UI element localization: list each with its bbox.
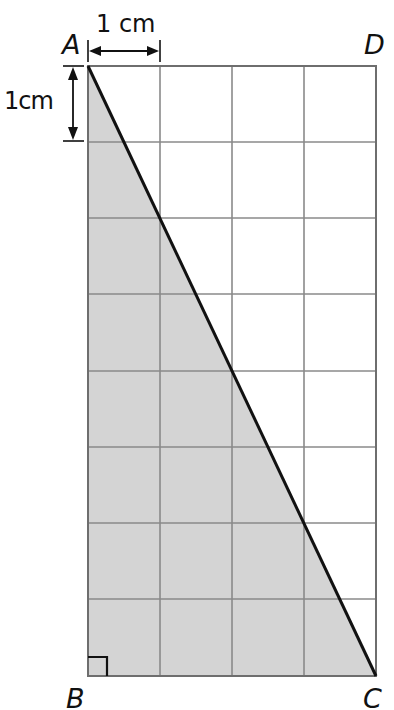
vertex-label-c: C [363,685,382,710]
vertex-label-b: B [66,685,85,710]
vertical-dimension-arrow [63,66,84,141]
vertex-label-d: D [364,31,385,58]
vertical-dimension-label: 1cm [4,89,53,113]
horizontal-dimension-label: 1 cm [96,12,155,36]
geometry-diagram [0,0,394,710]
horizontal-dimension-arrow [88,40,160,62]
vertex-label-a: A [62,31,80,58]
